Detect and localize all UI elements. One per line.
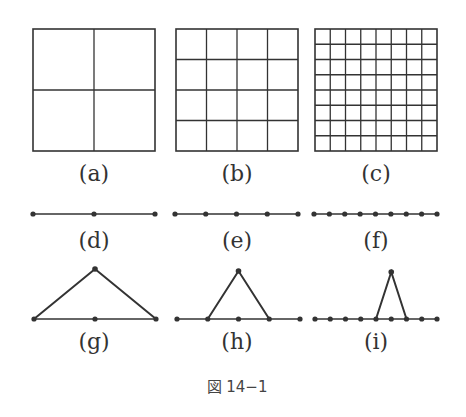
peak-node-dot <box>92 266 98 272</box>
line-5-nodes-panel <box>172 211 300 216</box>
peak-node-dot <box>236 268 242 274</box>
hat-function-shape <box>376 272 407 319</box>
node-dot <box>174 316 179 321</box>
label-c: (c) <box>361 161 391 186</box>
node-dot <box>295 211 300 216</box>
node-dot <box>327 211 332 216</box>
hat-function-shape <box>34 269 156 319</box>
hat-function-5-nodes-panel <box>174 268 302 321</box>
hat-function-9-nodes-panel <box>312 269 439 321</box>
node-dot <box>434 316 439 321</box>
grid-8x8-panel <box>315 29 437 151</box>
node-dot <box>404 211 409 216</box>
node-dot <box>388 211 393 216</box>
line-9-nodes-panel <box>311 211 439 216</box>
node-dot <box>311 211 316 216</box>
node-dot <box>172 211 177 216</box>
figure-canvas: (a) (b) (c) (d) (e) (f) (g) (h) (i) 図 14… <box>0 0 466 417</box>
node-dot <box>92 316 97 321</box>
hat-function-3-nodes-panel <box>31 266 158 321</box>
label-b: (b) <box>221 161 252 186</box>
label-d: (d) <box>78 228 109 253</box>
node-dot <box>328 316 333 321</box>
label-a: (a) <box>79 161 109 186</box>
node-dot <box>203 211 208 216</box>
grid-4x4-panel <box>176 29 298 151</box>
peak-node-dot <box>388 269 394 275</box>
line-3-nodes-panel <box>30 211 157 216</box>
node-dot <box>419 211 424 216</box>
label-e: (e) <box>222 228 252 253</box>
label-f: (f) <box>363 228 388 253</box>
figure-caption: 図 14−1 <box>207 378 268 396</box>
node-dot <box>389 316 394 321</box>
label-i: (i) <box>364 329 388 354</box>
node-dot <box>434 211 439 216</box>
node-dot <box>358 211 363 216</box>
hat-function-shape <box>208 271 270 319</box>
node-dot <box>358 316 363 321</box>
label-g: (g) <box>78 329 109 354</box>
node-dot <box>373 211 378 216</box>
node-dot <box>419 316 424 321</box>
node-dot <box>91 211 96 216</box>
node-dot <box>343 316 348 321</box>
node-dot <box>236 316 241 321</box>
node-dot <box>342 211 347 216</box>
node-dot <box>30 211 35 216</box>
node-dot <box>297 316 302 321</box>
node-dot <box>234 211 239 216</box>
node-dot <box>312 316 317 321</box>
node-dot <box>152 211 157 216</box>
node-dot <box>265 211 270 216</box>
label-h: (h) <box>221 329 252 354</box>
grid-2x2-panel <box>33 29 155 151</box>
